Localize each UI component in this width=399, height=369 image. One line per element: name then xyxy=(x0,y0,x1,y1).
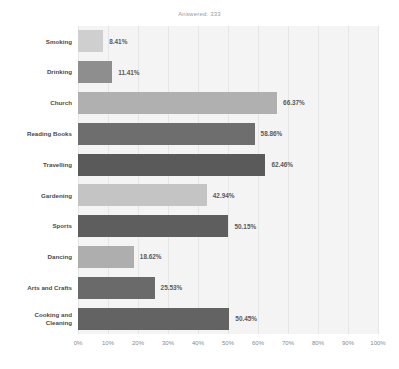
x-tick-label: 90% xyxy=(342,340,354,346)
labels-layer: Smoking8.41%Drinking11.41%Church66.37%Re… xyxy=(0,26,399,334)
value-label: 25.53% xyxy=(161,284,183,291)
value-label: 50.45% xyxy=(235,315,257,322)
category-label: Drinking xyxy=(0,68,72,76)
value-label: 66.37% xyxy=(283,99,305,106)
value-label: 58.86% xyxy=(261,130,283,137)
category-label: Smoking xyxy=(0,38,72,46)
x-tick-label: 100% xyxy=(370,340,385,346)
category-label: Church xyxy=(0,99,72,107)
x-tick-label: 60% xyxy=(252,340,264,346)
category-label: Gardening xyxy=(0,192,72,200)
x-tick-label: 10% xyxy=(102,340,114,346)
category-label: Sports xyxy=(0,222,72,230)
value-label: 50.15% xyxy=(234,223,256,230)
value-label: 42.94% xyxy=(213,192,235,199)
category-label: Dancing xyxy=(0,253,72,261)
x-tick-label: 50% xyxy=(222,340,234,346)
value-label: 62.46% xyxy=(271,161,293,168)
bar-chart: Answered: 333 Smoking8.41%Drinking11.41%… xyxy=(0,0,399,369)
category-label: Reading Books xyxy=(0,130,72,138)
category-label: Travelling xyxy=(0,161,72,169)
category-label: Cooking andCleaning xyxy=(0,311,72,326)
chart-title: Answered: 333 xyxy=(0,11,399,17)
x-tick-label: 80% xyxy=(312,340,324,346)
x-tick-label: 20% xyxy=(132,340,144,346)
category-label: Arts and Crafts xyxy=(0,284,72,292)
x-tick-label: 70% xyxy=(282,340,294,346)
x-tick-label: 40% xyxy=(192,340,204,346)
value-label: 8.41% xyxy=(109,38,127,45)
x-tick-label: 0% xyxy=(74,340,83,346)
x-tick-label: 30% xyxy=(162,340,174,346)
value-label: 11.41% xyxy=(118,69,139,76)
value-label: 18.62% xyxy=(140,253,162,260)
x-axis: 0%10%20%30%40%50%60%70%80%90%100% xyxy=(78,336,378,354)
